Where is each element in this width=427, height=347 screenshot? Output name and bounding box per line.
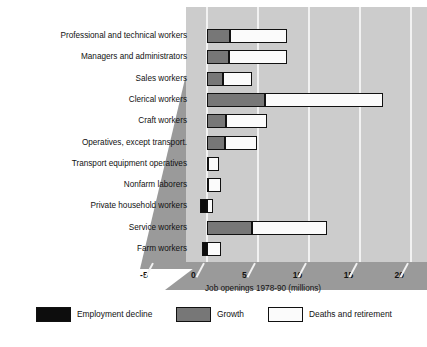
- bar-row[interactable]: [186, 157, 427, 171]
- tick-label: 5: [242, 270, 247, 280]
- bar-segment-growth: [207, 114, 226, 128]
- bar-segment-deaths-retirement: [229, 50, 287, 64]
- bar-segment-deaths-retirement: [208, 178, 221, 192]
- plot-area: [186, 7, 427, 262]
- legend-swatch-decline: [36, 307, 71, 322]
- legend-label: Employment decline: [77, 309, 152, 319]
- bar-row[interactable]: [186, 178, 427, 192]
- bar-segment-growth: [207, 93, 265, 107]
- bar-segment-deaths-retirement: [230, 29, 287, 43]
- legend-label: Deaths and retirement: [309, 309, 392, 319]
- category-label: Nonfarm laborers: [124, 180, 187, 190]
- bar-segment-deaths-retirement: [252, 221, 327, 235]
- bar-segment-deaths-retirement: [225, 136, 257, 150]
- bar-segment-deaths-retirement: [208, 157, 219, 171]
- legend-swatch-deaths: [268, 307, 303, 322]
- category-label: Managers and administrators: [81, 52, 187, 62]
- bar-row[interactable]: [186, 93, 427, 107]
- legend-label: Growth: [217, 309, 244, 319]
- cut-off-title: [182, 0, 427, 7]
- bar-segment-employment-decline: [202, 242, 208, 256]
- bar-segment-growth: [207, 50, 229, 64]
- category-label: Service workers: [129, 223, 187, 233]
- bar-row[interactable]: [186, 29, 427, 43]
- bar-row[interactable]: [186, 72, 427, 86]
- category-label: Transport equipment operatives: [72, 159, 187, 169]
- bar-segment-deaths-retirement: [223, 72, 252, 86]
- bar-row[interactable]: [186, 221, 427, 235]
- category-label: Private household workers: [91, 201, 187, 211]
- category-label: Craft workers: [138, 116, 187, 126]
- bar-row[interactable]: [186, 114, 427, 128]
- category-label: Operatives, except transport.: [82, 138, 187, 148]
- bar-segment-growth: [207, 221, 252, 235]
- category-label: Sales workers: [136, 74, 187, 84]
- bar-row[interactable]: [186, 50, 427, 64]
- bar-segment-growth: [207, 136, 225, 150]
- category-label: Professional and technical workers: [60, 31, 187, 41]
- bar-segment-deaths-retirement: [226, 114, 267, 128]
- bar-row[interactable]: [186, 242, 427, 256]
- bar-segment-growth: [207, 29, 230, 43]
- x-axis-title: Job openings 1978-90 (millions): [205, 284, 321, 293]
- bar-segment-growth: [207, 72, 223, 86]
- chart-legend: Employment declineGrowthDeaths and retir…: [0, 305, 427, 329]
- category-label: Farm workers: [137, 244, 187, 254]
- legend-swatch-growth: [176, 307, 211, 322]
- category-label: Clerical workers: [129, 95, 187, 105]
- bar-segment-deaths-retirement: [207, 242, 221, 256]
- bar-row[interactable]: [186, 136, 427, 150]
- bar-segment-deaths-retirement: [207, 199, 213, 213]
- bar-segment-employment-decline: [200, 199, 207, 213]
- bar-segment-deaths-retirement: [265, 93, 383, 107]
- chart-figure: Professional and technical workersManage…: [0, 0, 427, 347]
- bar-row[interactable]: [186, 199, 427, 213]
